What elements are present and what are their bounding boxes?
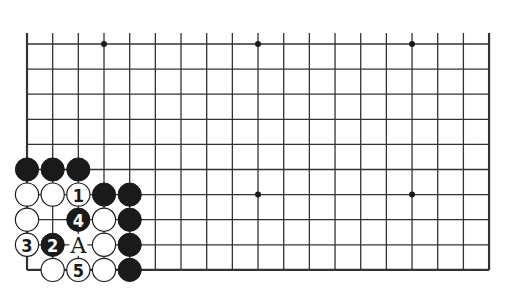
white-stone-icon	[41, 258, 64, 281]
black-stone	[118, 208, 141, 231]
black-stone-icon	[118, 233, 141, 256]
white-stone-icon	[92, 233, 115, 256]
white-stone	[92, 258, 115, 281]
go-board-diagram: 14325 A	[0, 0, 508, 298]
white-stone	[92, 233, 115, 256]
move-number-label: 3	[21, 235, 32, 256]
white-stone-icon	[92, 208, 115, 231]
black-stone-icon	[118, 183, 141, 206]
stones-layer: 14325	[15, 158, 141, 282]
star-point-icon	[409, 41, 415, 47]
white-stone: 5	[67, 258, 90, 281]
black-stone-icon	[41, 158, 64, 181]
white-stone-icon	[15, 183, 38, 206]
move-number-label: 2	[47, 235, 58, 256]
star-point-icon	[101, 41, 107, 47]
black-stone: 2	[41, 233, 64, 256]
black-stone-icon	[15, 158, 38, 181]
black-stone	[41, 158, 64, 181]
black-stone-icon	[118, 258, 141, 281]
move-number-label: 5	[73, 260, 84, 281]
black-stone	[92, 183, 115, 206]
white-stone: 1	[67, 183, 90, 206]
black-stone	[67, 158, 90, 181]
white-stone	[41, 183, 64, 206]
star-point-icon	[255, 192, 261, 198]
white-stone	[15, 183, 38, 206]
black-stone	[118, 258, 141, 281]
white-stone: 3	[15, 233, 38, 256]
black-stone-icon	[92, 183, 115, 206]
black-stone	[118, 233, 141, 256]
move-number-label: 1	[73, 185, 84, 206]
black-stone: 4	[67, 208, 90, 231]
move-number-label: 4	[73, 210, 84, 231]
white-stone-icon	[92, 258, 115, 281]
black-stone-icon	[118, 208, 141, 231]
white-stone-icon	[15, 208, 38, 231]
white-stone-icon	[41, 183, 64, 206]
board-grid	[27, 33, 489, 270]
black-stone	[15, 158, 38, 181]
markers-layer: A	[69, 233, 87, 258]
white-stone	[41, 258, 64, 281]
star-point-icon	[255, 41, 261, 47]
black-stone-icon	[67, 158, 90, 181]
white-stone	[15, 208, 38, 231]
white-stone	[92, 208, 115, 231]
star-point-icon	[409, 192, 415, 198]
point-marker-label: A	[69, 233, 87, 258]
black-stone	[118, 183, 141, 206]
